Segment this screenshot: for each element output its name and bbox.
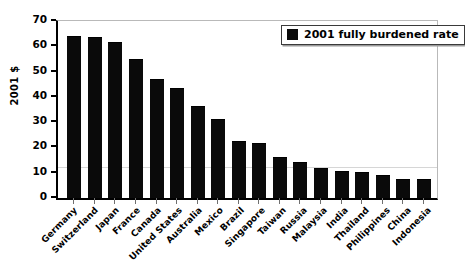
y-axis-tick-label: 0 (40, 190, 47, 202)
bar[interactable] (273, 157, 287, 198)
bar-slot (372, 21, 393, 198)
bar-slot (146, 21, 167, 198)
plot-area (56, 20, 438, 200)
bar[interactable] (232, 141, 246, 198)
bar-slot (229, 21, 250, 198)
bar-slot (270, 21, 291, 198)
y-axis-tick-label: 40 (32, 89, 47, 101)
chart-legend: 2001 fully burdened rate (281, 25, 465, 45)
legend-label: 2001 fully burdened rate (304, 28, 459, 41)
legend-swatch-icon (287, 29, 298, 40)
bar-slot (393, 21, 414, 198)
bar[interactable] (293, 162, 307, 198)
bar[interactable] (67, 36, 81, 198)
y-axis-tick-mark (51, 19, 56, 21)
bar-slot (290, 21, 311, 198)
bar-chart-figure: 2001 $ 706050403020100 GermanySwitzerlan… (0, 0, 465, 272)
bar-slot (167, 21, 188, 198)
y-axis-tick-label: 50 (32, 64, 47, 76)
y-axis-tick-mark (51, 171, 56, 173)
bar-slot (187, 21, 208, 198)
bar[interactable] (108, 42, 122, 199)
x-label-slot: Mexico (208, 202, 229, 272)
y-axis-tick-label: 20 (32, 139, 47, 151)
y-axis-tick-mark (51, 120, 56, 122)
bar[interactable] (376, 175, 390, 198)
bar[interactable] (335, 171, 349, 198)
bar[interactable] (88, 37, 102, 198)
bar[interactable] (150, 79, 164, 198)
bar-slot (105, 21, 126, 198)
bar-slot (126, 21, 147, 198)
x-label-slot: Taiwan (270, 202, 291, 272)
y-axis-title: 2001 $ (9, 82, 20, 106)
y-axis-tick-label: 70 (32, 13, 47, 25)
y-axis-tick-mark (51, 70, 56, 72)
y-axis-tick-mark (51, 196, 56, 198)
bar-slot (208, 21, 229, 198)
bar[interactable] (191, 106, 205, 198)
x-label-slot: Switzerland (83, 202, 104, 272)
bar[interactable] (129, 59, 143, 198)
y-axis-tick-mark (51, 145, 56, 147)
x-label-slot: Malaysia (312, 202, 333, 272)
bar-slot (311, 21, 332, 198)
bars-layer (60, 21, 437, 198)
bar-slot (331, 21, 352, 198)
y-axis-tick-mark (51, 44, 56, 46)
bar-slot (64, 21, 85, 198)
x-axis-labels: GermanySwitzerlandJapanFranceCanadaUnite… (58, 202, 440, 272)
bar[interactable] (396, 179, 410, 198)
bar-slot (249, 21, 270, 198)
x-label-slot: Indonesia (416, 202, 437, 272)
y-axis-tick-mark (51, 95, 56, 97)
x-label-slot: Japan (104, 202, 125, 272)
x-label-slot: Australia (187, 202, 208, 272)
bar[interactable] (314, 168, 328, 198)
bar[interactable] (170, 88, 184, 198)
y-axis-tick-label: 10 (32, 165, 47, 177)
bar[interactable] (355, 172, 369, 198)
bar[interactable] (252, 143, 266, 198)
bar-slot (85, 21, 106, 198)
x-label-slot: Singapore (249, 202, 270, 272)
y-axis-tick-label: 30 (32, 114, 47, 126)
bar[interactable] (417, 179, 431, 198)
bar-slot (352, 21, 373, 198)
bar[interactable] (211, 119, 225, 198)
y-axis-tick-label: 60 (32, 38, 47, 50)
bar-slot (414, 21, 435, 198)
